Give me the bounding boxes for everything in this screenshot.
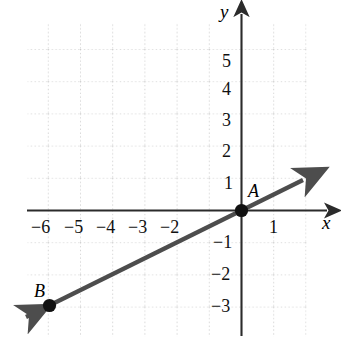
y-tick-neg2: −2 — [211, 265, 230, 283]
point-A-marker — [235, 204, 248, 217]
x-tick-1: 1 — [269, 218, 278, 236]
x-tick-neg3: −3 — [128, 218, 147, 236]
x-tick-neg5: −5 — [64, 218, 83, 236]
x-axis-label: x — [322, 213, 330, 232]
y-tick-2: 2 — [222, 142, 231, 160]
y-tick-3: 3 — [222, 111, 231, 129]
y-tick-1: 1 — [224, 174, 233, 192]
y-tick-neg3: −3 — [211, 297, 230, 315]
x-tick-neg2: −2 — [160, 218, 179, 236]
y-tick-4: 4 — [222, 80, 231, 98]
grid-lines — [28, 24, 307, 337]
y-tick-neg1: −1 — [213, 233, 232, 251]
x-tick-neg6: −6 — [31, 218, 50, 236]
coordinate-plane-figure: y x 5 4 3 2 1 −1 −2 −3 −6 −5 −4 −3 −2 1 … — [0, 0, 341, 348]
x-tick-neg4: −4 — [96, 218, 115, 236]
y-tick-5: 5 — [222, 52, 231, 70]
point-label-B: B — [34, 282, 45, 300]
point-label-A: A — [248, 182, 259, 200]
graph-canvas — [0, 0, 341, 348]
y-axis-label: y — [220, 2, 228, 21]
